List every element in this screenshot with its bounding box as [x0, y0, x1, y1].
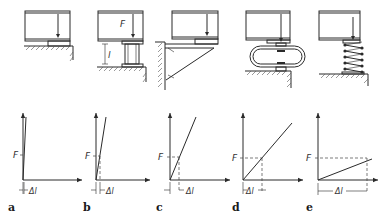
- svg-text:F: F: [158, 152, 164, 162]
- characteristic-line: [318, 159, 372, 180]
- beam: [246, 11, 290, 40]
- chart-d: F Δl d: [232, 113, 303, 214]
- characteristic-line: [96, 117, 106, 180]
- chart-c: F Δl c: [156, 113, 230, 214]
- panel-label-c: c: [156, 201, 163, 214]
- support-e-coil-spring: [319, 11, 368, 86]
- length-label: l: [108, 50, 111, 60]
- column: [125, 44, 139, 64]
- chart-a: F Δl a: [8, 113, 82, 214]
- svg-text:F: F: [85, 151, 91, 161]
- beam: [25, 11, 70, 41]
- characteristic-line: [243, 123, 292, 180]
- panel-label-a: a: [8, 201, 15, 214]
- chart-b: F Δl b: [83, 113, 150, 214]
- pad: [48, 41, 70, 46]
- svg-text:F: F: [306, 153, 312, 163]
- spring-support-diagram: F l: [0, 0, 392, 217]
- characteristic-line: [170, 117, 196, 180]
- panel-label-e: e: [306, 201, 313, 214]
- panel-label-b: b: [83, 201, 91, 214]
- chart-e: F Δl e: [306, 113, 378, 214]
- svg-text:Δl: Δl: [185, 187, 194, 196]
- panel-label-d: d: [232, 201, 240, 214]
- support-a-rigid-pad: [24, 11, 73, 61]
- svg-text:F: F: [13, 150, 19, 160]
- coil-spring: [343, 42, 363, 74]
- svg-text:Δl: Δl: [334, 187, 343, 196]
- svg-text:F: F: [232, 153, 238, 163]
- svg-text:Δl: Δl: [28, 187, 37, 196]
- svg-text:Δl: Δl: [245, 187, 254, 196]
- support-d-loop-spring: [245, 11, 305, 88]
- svg-text:Δl: Δl: [105, 187, 114, 196]
- beam: [172, 11, 218, 39]
- bracket-strut: [166, 48, 214, 80]
- beam: [319, 11, 360, 40]
- support-c-bracket: [155, 11, 218, 90]
- force-label: F: [120, 19, 126, 29]
- support-b-column: F l: [97, 11, 146, 82]
